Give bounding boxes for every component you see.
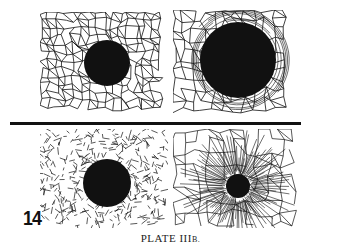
black-disc: [200, 22, 276, 98]
caption-main: PLATE III: [141, 232, 192, 244]
black-disc: [226, 174, 250, 198]
caption-suffix: B.: [192, 235, 200, 244]
figure-top-right: [173, 10, 291, 116]
plate-caption: PLATE IIIB.: [0, 232, 341, 244]
black-disc: [83, 159, 131, 207]
black-disc: [84, 40, 130, 86]
divider-rule: [10, 122, 301, 125]
figure-bottom-right: [173, 129, 303, 228]
figure-bottom-left: [40, 129, 168, 228]
page-number: 14: [23, 206, 41, 230]
figure-top-left: [40, 12, 168, 114]
